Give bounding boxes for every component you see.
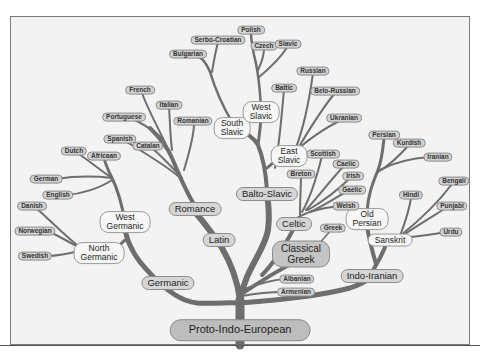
node-romance: Romance [169,202,222,216]
node-east-slavic-line2: Slavic [278,156,301,165]
leaf-africaan: Africaan [87,152,121,161]
leaf-russian: Russian [296,67,329,76]
leaf-belo-russian: Belo-Russian [310,87,360,96]
leaf-scottish: Scottish [306,150,340,159]
leaf-portuguese: Portuguese [102,113,146,122]
leaf-greek: Greek [320,224,346,233]
node-sanskrit: Sanskrit [368,234,413,247]
leaf-armenian: Armenian [277,288,315,297]
leaf-punjabi: Punjabi [436,202,467,211]
node-old-persian-line2: Persian [353,219,382,228]
node-classical-greek: Classical Greek [272,241,330,268]
leaf-danish: Danish [17,202,47,211]
leaf-iranian: Iranian [423,153,452,162]
node-west-germanic: West Germanic [100,211,151,233]
node-west-slavic-line2: Slavic [250,112,273,121]
leaf-kurdish: Kurdish [393,139,426,148]
node-south-slavic-line2: Slavic [221,128,244,137]
leaf-dutch: Dutch [61,147,87,156]
node-north-germanic-line2: Germanic [81,253,118,262]
node-classical-greek-line2: Greek [281,254,321,265]
leaf-romanian: Romanian [173,117,212,126]
node-celtic: Celtic [276,217,312,231]
tree-branches [0,0,480,356]
leaf-swedish: Swedish [18,252,52,261]
node-classical-greek-line1: Classical [281,244,321,255]
leaf-albanian: Albanian [279,275,314,284]
node-latin: Latin [203,233,236,247]
node-east-slavic: East Slavic [271,145,308,167]
leaf-bulgarian: Bulgarian [169,50,207,59]
leaf-welsh: Welsh [332,202,359,211]
leaf-polish: Polish [237,26,265,35]
leaf-norwegian: Norwegian [14,227,55,236]
leaf-english: English [42,191,73,200]
leaf-urdu: Urdu [439,228,462,237]
node-germanic: Germanic [141,276,194,290]
leaf-italian: Italian [156,101,183,110]
leaf-gaelic: Gaelic [338,186,366,195]
leaf-hindi: Hindi [399,191,423,200]
leaf-spanish: Spanish [103,135,136,144]
leaf-catalan: Catalan [132,142,163,151]
leaf-czech: Czech [250,42,277,51]
node-indo-iranian: Indo-Iranian [341,269,404,283]
leaf-baltic: Baltic [271,84,297,93]
node-proto-indo-european: Proto-Indo-European [170,319,311,341]
leaf-german: German [30,175,63,184]
leaf-serbo-croatian: Serbo-Croatian [191,36,246,45]
node-old-persian: Old Persian [346,208,389,230]
leaf-slavic: Slavic [275,40,302,49]
leaf-ukranian: Ukranian [326,114,362,123]
frame-bottom-border [0,345,480,346]
leaf-caelic: Caelic [332,160,359,169]
leaf-bengali: Bengali [438,177,469,186]
leaf-irish: Irish [342,172,364,181]
node-west-slavic: West Slavic [243,101,280,123]
node-north-germanic: North Germanic [74,242,125,264]
leaf-breton: Breton [287,170,316,179]
node-west-germanic-line2: Germanic [107,222,144,231]
leaf-french: French [125,86,155,95]
node-balto-slavic: Balto-Slavic [236,187,298,201]
